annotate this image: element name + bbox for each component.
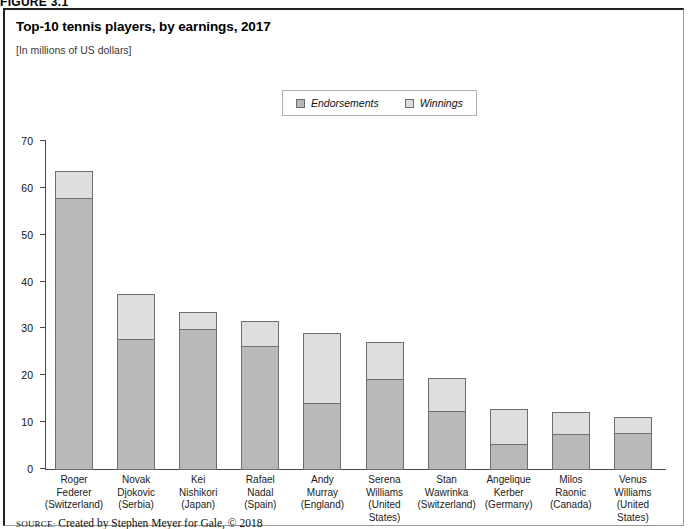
y-axis-tick-label: 50 <box>7 229 33 241</box>
bar-group[interactable] <box>117 294 155 469</box>
chart-plot-area: 706050403020100 <box>45 141 666 470</box>
x-axis-label-line: Serena <box>353 474 415 487</box>
x-axis-label: AngeliqueKerber(Germany) <box>478 474 540 512</box>
x-axis-label-line: Raonic <box>540 487 602 500</box>
x-axis-label: RogerFederer(Switzerland) <box>43 474 105 512</box>
legend-label-endorsements: Endorsements <box>311 97 379 109</box>
y-axis-tick-mark <box>40 281 46 282</box>
bar-segment-endorsements[interactable] <box>179 329 217 471</box>
x-axis-label-line: Nadal <box>229 487 291 500</box>
y-axis-tick: 70 <box>7 135 51 147</box>
legend-label-winnings: Winnings <box>420 97 463 109</box>
y-axis-tick: 30 <box>7 322 51 334</box>
x-axis-label: SerenaWilliams(United States) <box>353 474 415 524</box>
square-swatch-icon <box>296 99 305 108</box>
bar-segment-winnings[interactable] <box>179 312 217 330</box>
x-axis-label: VenusWilliams(United States) <box>602 474 664 524</box>
y-axis-tick-mark <box>40 140 46 141</box>
x-axis-label-line: Federer <box>43 487 105 500</box>
x-axis-label-line: Novak <box>105 474 167 487</box>
bar-group[interactable] <box>490 409 528 469</box>
y-axis-tick-mark <box>40 327 46 328</box>
y-axis-tick-label: 40 <box>7 276 33 288</box>
bar-segment-winnings[interactable] <box>55 171 93 199</box>
bar-segment-endorsements[interactable] <box>241 346 279 470</box>
x-axis-label: NovakDjokovic(Serbia) <box>105 474 167 512</box>
y-axis-tick-label: 30 <box>7 322 33 334</box>
x-axis-label-line: Angelique <box>478 474 540 487</box>
x-axis-label-line: Nishikori <box>167 487 229 500</box>
source-note: SOURCE: Created by Stephen Meyer for Gal… <box>16 517 262 529</box>
x-axis-label-line: Williams <box>353 487 415 500</box>
bar-segment-endorsements[interactable] <box>366 379 404 470</box>
x-axis-label-line: (England) <box>291 499 353 512</box>
bar-segment-endorsements[interactable] <box>614 433 652 470</box>
bar-segment-winnings[interactable] <box>552 412 590 435</box>
bar-group[interactable] <box>303 333 341 469</box>
x-axis-label-line: (Spain) <box>229 499 291 512</box>
y-axis-tick-label: 10 <box>7 416 33 428</box>
y-axis-tick-mark <box>40 234 46 235</box>
y-axis-tick-mark <box>40 421 46 422</box>
y-axis-tick-mark <box>40 374 46 375</box>
bar-segment-endorsements[interactable] <box>117 339 155 470</box>
x-axis-labels: RogerFederer(Switzerland)NovakDjokovic(S… <box>45 474 666 516</box>
bar-segment-endorsements[interactable] <box>552 434 590 470</box>
bar-segment-winnings[interactable] <box>490 409 528 445</box>
chart-subtitle: [In millions of US dollars] <box>16 44 132 56</box>
bar-segment-winnings[interactable] <box>117 294 155 340</box>
y-axis-tick-mark <box>40 187 46 188</box>
bar-group[interactable] <box>179 312 217 469</box>
bar-segment-winnings[interactable] <box>366 342 404 379</box>
x-axis-label-line: (United States) <box>353 499 415 524</box>
bar-segment-winnings[interactable] <box>303 333 341 403</box>
x-axis-label-line: Rafael <box>229 474 291 487</box>
x-axis-label-line: (Japan) <box>167 499 229 512</box>
bar-segment-endorsements[interactable] <box>490 444 528 470</box>
x-axis-label: MilosRaonic(Canada) <box>540 474 602 512</box>
bar-segment-endorsements[interactable] <box>428 411 466 470</box>
bar-group[interactable] <box>428 378 466 469</box>
y-axis-tick: 20 <box>7 369 51 381</box>
bar-segment-winnings[interactable] <box>614 417 652 434</box>
x-axis-label: AndyMurray(England) <box>291 474 353 512</box>
source-text: Created by Stephen Meyer for Gale, © 201… <box>58 517 262 529</box>
y-axis-tick-label: 20 <box>7 369 33 381</box>
bar-group[interactable] <box>366 342 404 469</box>
bar-group[interactable] <box>241 321 279 469</box>
y-axis-tick-label: 0 <box>7 463 33 475</box>
x-axis-label-line: Kei <box>167 474 229 487</box>
y-axis-tick-mark <box>40 468 46 469</box>
page-title: Top-10 tennis players, by earnings, 2017 <box>16 19 271 34</box>
figure-number-label: FIGURE 3.1 <box>0 0 688 8</box>
x-axis-label-line: Andy <box>291 474 353 487</box>
x-axis-label-line: (Switzerland) <box>416 499 478 512</box>
y-axis-tick-label: 60 <box>7 182 33 194</box>
bar-segment-winnings[interactable] <box>241 321 279 347</box>
x-axis-label: RafaelNadal(Spain) <box>229 474 291 512</box>
x-axis-label-line: Wawrinka <box>416 487 478 500</box>
y-axis-tick: 50 <box>7 229 51 241</box>
bar-group[interactable] <box>55 171 93 469</box>
x-axis-label-line: Murray <box>291 487 353 500</box>
bar-segment-endorsements[interactable] <box>55 198 93 470</box>
bar-group[interactable] <box>552 412 590 469</box>
y-axis-tick: 60 <box>7 182 51 194</box>
x-axis-label-line: (Switzerland) <box>43 499 105 512</box>
x-axis-label-line: Williams <box>602 487 664 500</box>
bar-segment-winnings[interactable] <box>428 378 466 412</box>
x-axis-label-line: Djokovic <box>105 487 167 500</box>
x-axis-label-line: Venus <box>602 474 664 487</box>
source-label: SOURCE: <box>16 519 55 529</box>
bar-group[interactable] <box>614 417 652 469</box>
legend-item-endorsements: Endorsements <box>296 97 379 109</box>
y-axis-tick: 40 <box>7 276 51 288</box>
square-swatch-icon <box>405 99 414 108</box>
x-axis-label: StanWawrinka(Switzerland) <box>416 474 478 512</box>
x-axis-label-line: Milos <box>540 474 602 487</box>
x-axis-label: KeiNishikori(Japan) <box>167 474 229 512</box>
x-axis-label-line: (Serbia) <box>105 499 167 512</box>
legend-item-winnings: Winnings <box>405 97 463 109</box>
bar-segment-endorsements[interactable] <box>303 403 341 470</box>
x-axis-label-line: (Canada) <box>540 499 602 512</box>
